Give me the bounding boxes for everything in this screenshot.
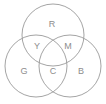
venn-label-blue: B <box>74 67 88 77</box>
venn-label-green: G <box>17 67 31 77</box>
venn-circles-group <box>0 0 106 104</box>
venn-label-cyan: C <box>46 67 60 77</box>
venn-label-magenta: M <box>61 42 75 52</box>
venn-label-red: R <box>45 20 59 30</box>
venn-label-yellow: Y <box>30 42 44 52</box>
venn-diagram: R Y M G C B <box>0 0 106 104</box>
